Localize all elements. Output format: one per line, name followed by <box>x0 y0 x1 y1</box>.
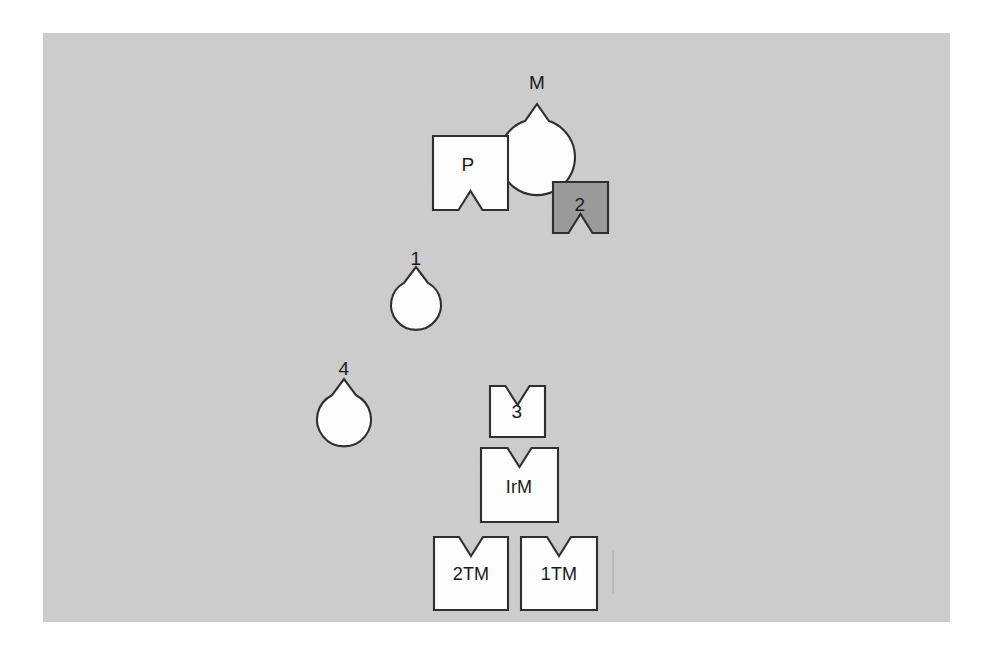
shape-2-label: 2 <box>575 194 586 215</box>
shape-m-label: M <box>529 72 545 93</box>
shape-p-label: P <box>462 154 475 175</box>
shape-2tm-label: 2TM <box>453 564 490 584</box>
shape-irm-label: IrM <box>506 477 533 497</box>
diagram-canvas: MP2143IrM2TM1TM <box>0 0 995 650</box>
gray-plate-background <box>43 33 950 622</box>
scan-artifact-layer <box>612 551 614 593</box>
shape-1tm-label: 1TM <box>541 564 578 584</box>
shape-3-label: 3 <box>512 401 523 422</box>
scan-line <box>612 551 614 593</box>
figure-root: MP2143IrM2TM1TM <box>0 0 995 650</box>
shape-4-label: 4 <box>339 358 350 379</box>
shape-1-label: 1 <box>411 248 422 269</box>
